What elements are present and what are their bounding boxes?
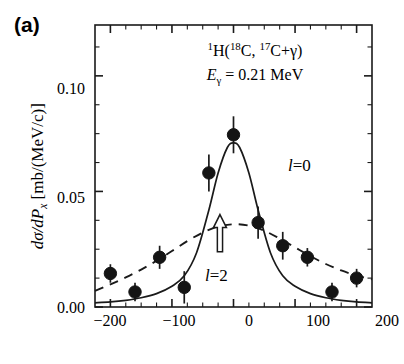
axes-frame (95, 25, 372, 307)
data-point (104, 264, 116, 282)
data-point (153, 246, 165, 269)
axis-ticks (95, 25, 372, 307)
curve-l0-solid (95, 143, 372, 303)
data-point (301, 248, 313, 266)
data-point (178, 271, 190, 303)
curve-l2-dashed (95, 224, 372, 291)
arrow-annotation-icon (213, 215, 226, 252)
data-points (104, 116, 363, 303)
data-point (350, 269, 362, 287)
data-point (277, 232, 289, 260)
data-point (203, 154, 215, 191)
data-point (252, 206, 264, 238)
data-point (227, 116, 239, 153)
